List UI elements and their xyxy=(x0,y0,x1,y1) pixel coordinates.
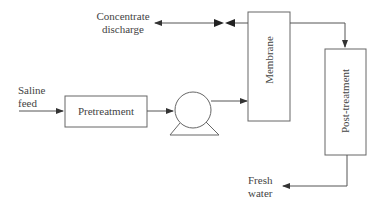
fresh-water-label: Fresh water xyxy=(248,174,272,200)
saline-feed-label: Saline feed xyxy=(18,84,46,110)
saline-feed-line2: feed xyxy=(18,97,46,110)
saline-feed-line1: Saline xyxy=(18,84,46,97)
fresh-water-line2: water xyxy=(248,187,272,200)
concentrate-line2: discharge xyxy=(88,23,158,36)
membrane-to-post-line xyxy=(290,23,345,47)
concentrate-discharge-label: Concentrate discharge xyxy=(88,10,158,36)
valve-icon xyxy=(214,19,235,27)
post-treatment-label: Post-treatment xyxy=(339,61,351,141)
concentrate-line1: Concentrate xyxy=(88,10,158,23)
fresh-water-line1: Fresh xyxy=(248,174,272,187)
fresh-water-line xyxy=(283,155,347,186)
pretreatment-label: Pretreatment xyxy=(65,105,147,118)
membrane-label: Membrane xyxy=(263,20,275,100)
pump-icon xyxy=(170,92,219,135)
diagram-canvas xyxy=(0,0,386,211)
